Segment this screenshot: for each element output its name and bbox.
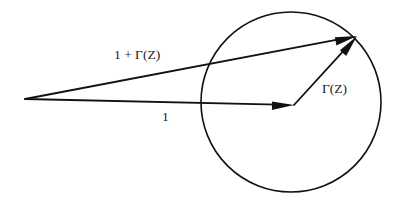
gamma-vector-label: Γ(Z) xyxy=(322,82,347,96)
diagram-canvas xyxy=(0,0,408,214)
sum-vector-label: 1 + Γ(Z) xyxy=(114,48,160,62)
gamma-vector-line xyxy=(294,48,346,105)
unit-vector-label: 1 xyxy=(162,110,169,124)
vector-diagram-figure: 1 + Γ(Z) 1 Γ(Z) xyxy=(0,0,408,214)
unit-vector-arrowhead xyxy=(272,102,294,110)
unit-vector-line xyxy=(25,99,278,105)
sum-vector-line xyxy=(25,39,341,99)
